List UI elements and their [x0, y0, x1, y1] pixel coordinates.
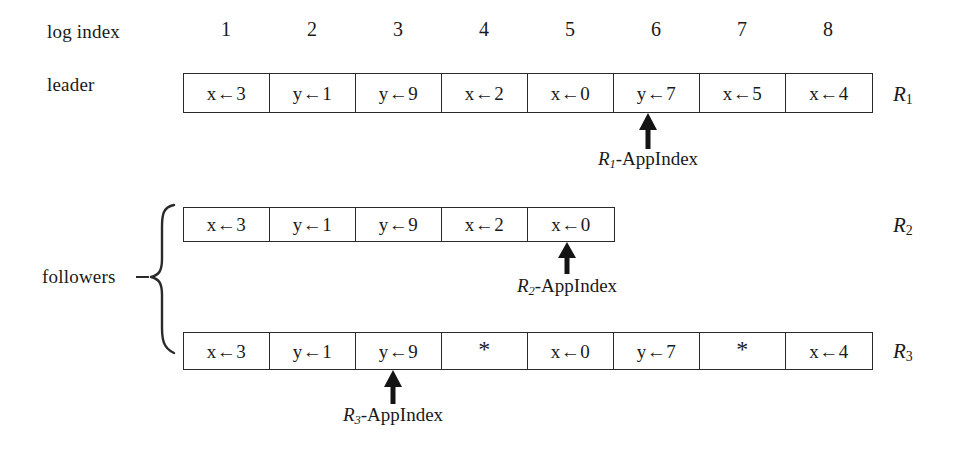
replica-name-r3: R3	[893, 339, 913, 365]
replica-name-r1: R1	[893, 82, 913, 108]
leader-label: leader	[47, 74, 95, 96]
log-index-7: 7	[737, 18, 747, 41]
appindex-label-r1-prefix: R	[598, 148, 610, 169]
log-cell-r3-5: x←0	[528, 333, 614, 369]
log-cell-r3-4: *	[442, 333, 528, 369]
log-cell-r3-6: y←7	[614, 333, 700, 369]
appindex-arrow-r1	[637, 113, 659, 153]
log-replication-diagram: log index leader followers 1 2 3 4 5 6 7…	[0, 0, 955, 464]
appindex-label-r2-prefix: R	[517, 275, 529, 296]
log-cell-r1-1: x←3	[184, 74, 270, 112]
log-index-3: 3	[393, 18, 403, 41]
appindex-label-r1-suffix: -AppIndex	[616, 148, 698, 169]
log-cell-r3-7: *	[700, 333, 786, 369]
log-cell-r1-4: x←2	[442, 74, 528, 112]
log-cell-r1-8: x←4	[786, 74, 872, 112]
log-index-4: 4	[479, 18, 489, 41]
replica-name-r3-letter: R	[893, 339, 906, 363]
log-cell-r2-5: x←0	[528, 208, 614, 241]
log-cell-r3-8: x←4	[786, 333, 872, 369]
log-index-1: 1	[221, 18, 231, 41]
appindex-label-r2-suffix: -AppIndex	[535, 275, 617, 296]
log-cell-r1-7: x←5	[700, 74, 786, 112]
log-index-2: 2	[307, 18, 317, 41]
followers-brace	[146, 203, 186, 359]
replica-name-r1-letter: R	[893, 82, 906, 106]
replica-name-r2-subscript: 2	[906, 223, 913, 238]
appindex-arrow-r3	[382, 370, 404, 408]
appindex-label-r2: R2-AppIndex	[517, 275, 617, 299]
appindex-label-r3-prefix: R	[343, 404, 355, 425]
appindex-arrow-r2	[556, 242, 578, 278]
log-cell-r1-2: y←1	[270, 74, 356, 112]
replica-name-r2-letter: R	[893, 213, 906, 237]
appindex-label-r1: R1-AppIndex	[598, 148, 698, 172]
log-cell-r2-4: x←2	[442, 208, 528, 241]
log-cell-r1-5: x←0	[528, 74, 614, 112]
log-cell-r3-2: y←1	[270, 333, 356, 369]
followers-label: followers	[42, 266, 116, 288]
log-cell-r2-3: y←9	[356, 208, 442, 241]
appindex-label-r3-suffix: -AppIndex	[361, 404, 443, 425]
log-index-5: 5	[565, 18, 575, 41]
log-cell-r1-3: y←9	[356, 74, 442, 112]
log-cell-r2-2: y←1	[270, 208, 356, 241]
replica-name-r3-subscript: 3	[906, 349, 913, 364]
replica-name-r1-subscript: 1	[906, 92, 913, 107]
log-index-label: log index	[47, 21, 120, 43]
log-cell-r2-1: x←3	[184, 208, 270, 241]
log-index-8: 8	[823, 18, 833, 41]
log-row-r1: x←3 y←1 y←9 x←2 x←0 y←7 x←5 x←4	[183, 73, 873, 113]
log-cell-r1-6: y←7	[614, 74, 700, 112]
log-cell-r3-3: y←9	[356, 333, 442, 369]
replica-name-r2: R2	[893, 213, 913, 239]
log-row-r2: x←3 y←1 y←9 x←2 x←0	[183, 207, 615, 242]
log-index-6: 6	[651, 18, 661, 41]
appindex-label-r3: R3-AppIndex	[343, 404, 443, 428]
log-cell-r3-1: x←3	[184, 333, 270, 369]
log-row-r3: x←3 y←1 y←9 * x←0 y←7 * x←4	[183, 332, 873, 370]
